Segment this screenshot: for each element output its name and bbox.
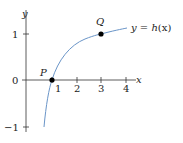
curve-h (44, 28, 127, 127)
tick-x-2: 2 (74, 83, 80, 94)
x-axis-label: x (136, 74, 142, 85)
tick-y-0: 0 (12, 75, 18, 86)
tick-y-minus1: −1 (4, 122, 19, 133)
label-p: P (39, 67, 47, 78)
y-axis-label: y (21, 8, 28, 19)
point-p (49, 77, 54, 82)
tick-y-1: 1 (12, 29, 18, 40)
label-q: Q (96, 16, 104, 27)
chart: 1 2 3 4 1 0 −1 y x P Q y = h(x) (0, 0, 183, 143)
point-q (98, 31, 103, 36)
tick-x-1: 1 (55, 83, 61, 94)
tick-x-3: 3 (98, 83, 104, 94)
tick-x-4: 4 (123, 83, 129, 94)
curve-label: y = h(x) (130, 22, 171, 33)
